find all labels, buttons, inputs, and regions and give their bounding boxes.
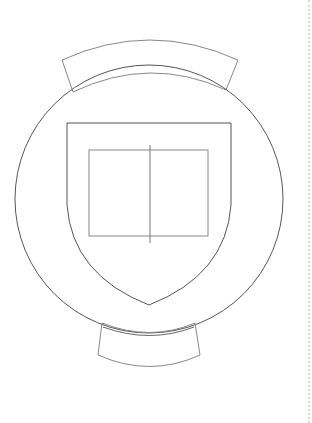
outer-circle [15,65,283,333]
top-banner-band [62,40,238,92]
book-rectangle [89,150,208,236]
page-edge-dotted-line [308,0,310,423]
emblem-drawing [0,0,312,423]
bottom-banner-band [98,323,200,367]
